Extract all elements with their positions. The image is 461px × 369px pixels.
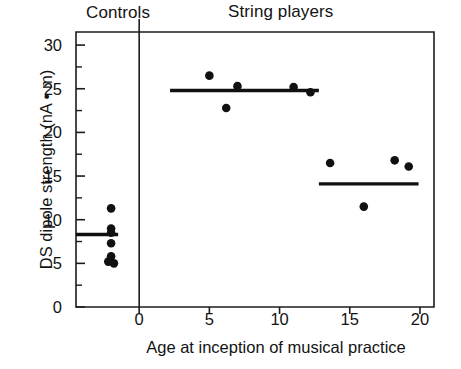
data-point [110,259,119,268]
plot-frame [76,32,434,307]
data-point [404,162,413,171]
data-point [222,104,231,113]
data-point [289,83,298,92]
data-point [306,88,315,97]
data-point [360,202,369,211]
scatter-plot [0,0,461,369]
data-point [390,156,399,165]
data-point [107,204,116,213]
data-point [107,239,116,248]
data-point [205,71,214,80]
figure-container: Controls String players DS dipole streng… [0,0,461,369]
data-point [326,159,335,168]
data-point [233,82,242,91]
data-point [107,228,116,237]
